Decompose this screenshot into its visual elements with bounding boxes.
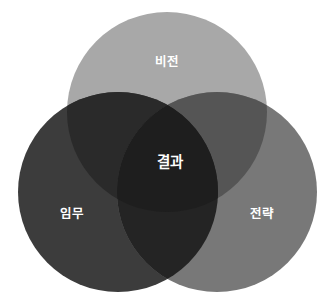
venn-diagram: 비전 임무 전략 결과 [0, 0, 333, 302]
center-intersection-label-result: 결과 [157, 155, 183, 170]
circle-label-vision: 비전 [155, 56, 179, 69]
circle-label-mission: 임무 [60, 208, 84, 221]
circle-label-strategy: 전략 [250, 208, 274, 221]
venn-circles-graphic [0, 0, 333, 302]
